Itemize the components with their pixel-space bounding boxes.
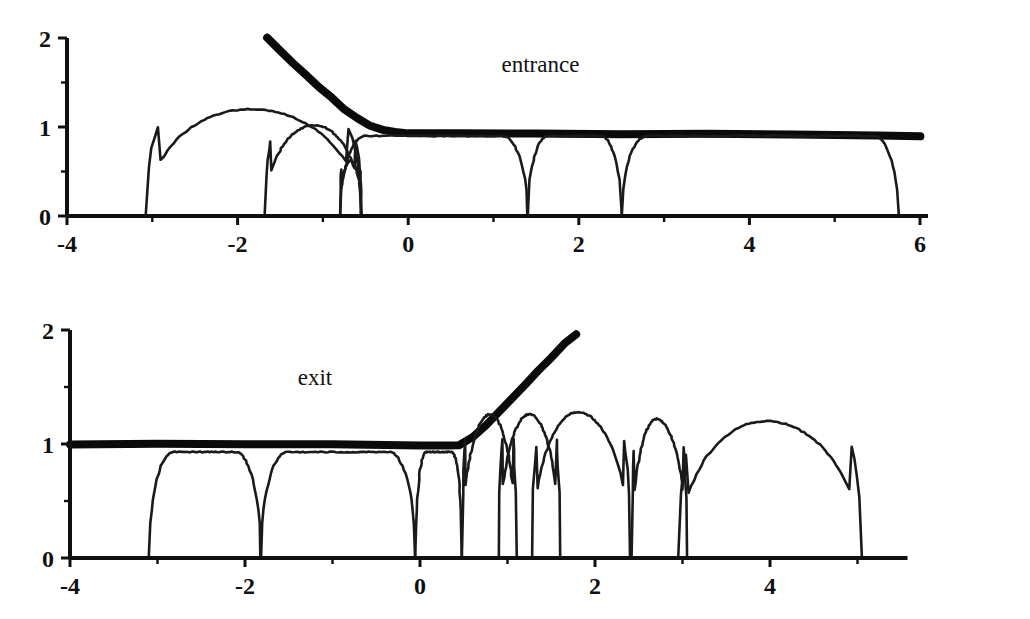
curve-bubble-2	[499, 414, 560, 558]
curve-plateau-2	[261, 451, 415, 558]
x-tick-label: 2	[573, 231, 585, 257]
x-tick-label: -2	[235, 573, 255, 599]
entrance-tick-labels: -4-20246012	[39, 26, 926, 257]
x-tick-label: 4	[743, 231, 755, 257]
curve-bubble-5	[678, 421, 862, 558]
curve-plateau-1	[340, 135, 527, 216]
y-tick-label: 2	[39, 26, 51, 52]
chart-panel-entrance: -4-20246012 entrance	[39, 26, 928, 257]
exit-axes	[61, 330, 908, 567]
curve-plateau-3	[622, 135, 899, 216]
chart-panel-exit: -4-2024012 exit	[42, 318, 908, 599]
y-tick-label: 1	[39, 115, 51, 141]
y-tick-label: 0	[39, 204, 51, 230]
x-tick-label: 4	[764, 573, 776, 599]
y-tick-label: 0	[42, 546, 54, 572]
entrance-annotation-label: entrance	[501, 52, 579, 77]
x-tick-label: 6	[914, 231, 926, 257]
curve-plateau-3	[415, 451, 462, 558]
curve-free-surface-envelope	[267, 38, 920, 137]
exit-annotation-label: exit	[298, 365, 333, 390]
curve-plateau-2	[528, 135, 622, 216]
x-tick-label: -4	[57, 231, 77, 257]
x-tick-label: -2	[228, 231, 248, 257]
figure-canvas: -4-20246012 entrance -4-2024012 exit	[0, 0, 1030, 619]
x-tick-label: 0	[402, 231, 414, 257]
curve-bubble-1	[146, 109, 362, 216]
y-tick-label: 1	[42, 432, 54, 458]
y-tick-label: 2	[42, 318, 54, 344]
x-tick-label: 0	[414, 573, 426, 599]
exit-curves	[70, 334, 862, 558]
x-tick-label: 2	[589, 573, 601, 599]
curve-bubble-3	[532, 412, 630, 558]
x-tick-label: -4	[60, 573, 80, 599]
curve-plateau-1	[149, 451, 261, 558]
